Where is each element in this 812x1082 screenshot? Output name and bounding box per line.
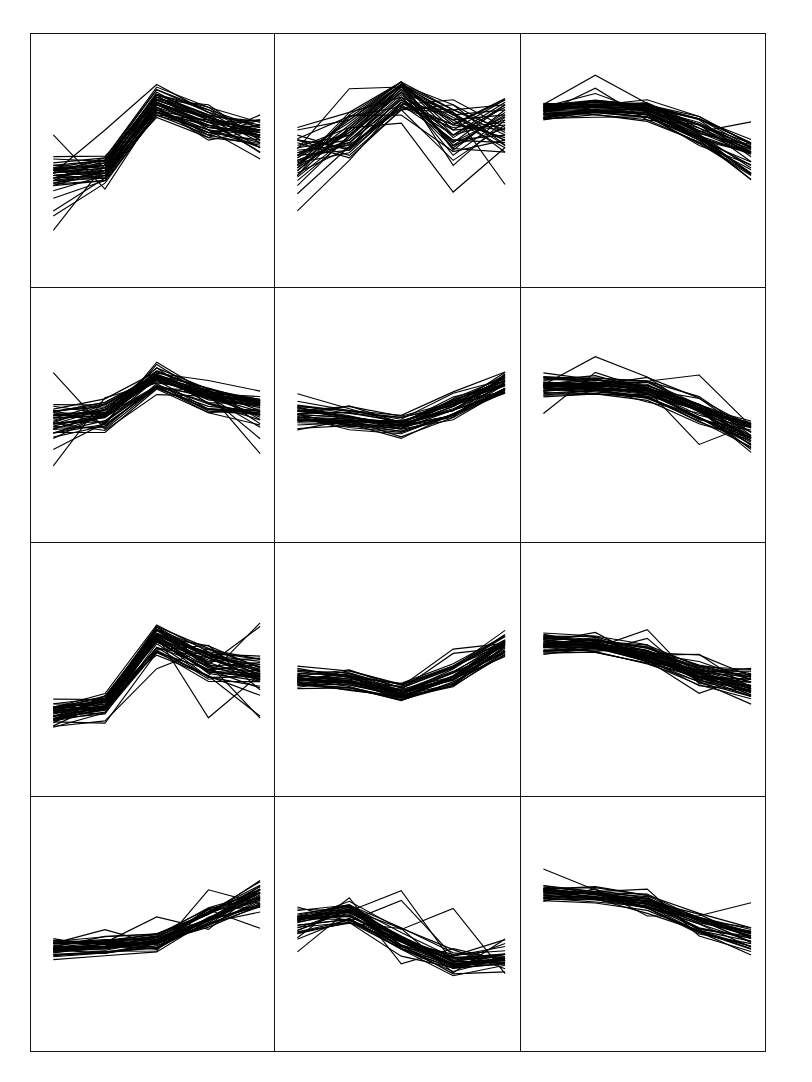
panel-r1c2[interactable] <box>275 33 520 288</box>
parallel-coordinates-plot <box>275 288 519 542</box>
parallel-coordinates-plot <box>521 34 765 287</box>
panel-r3c1[interactable] <box>30 543 275 798</box>
parallel-coordinates-plot <box>31 543 274 797</box>
panel-grid <box>30 33 766 1052</box>
figure-canvas <box>0 0 812 1082</box>
panel-r4c1[interactable] <box>30 797 275 1052</box>
panel-r2c3[interactable] <box>521 288 766 543</box>
panel-r1c3[interactable] <box>521 33 766 288</box>
parallel-coordinates-plot <box>31 34 274 287</box>
panel-r3c3[interactable] <box>521 543 766 798</box>
profile-line <box>543 112 751 179</box>
panel-r4c3[interactable] <box>521 797 766 1052</box>
profile-line <box>543 117 751 176</box>
panel-r2c2[interactable] <box>275 288 520 543</box>
panel-r3c2[interactable] <box>275 543 520 798</box>
parallel-coordinates-plot <box>31 288 274 542</box>
parallel-coordinates-plot <box>275 797 519 1051</box>
profile-line <box>53 648 260 726</box>
profile-line <box>298 905 506 958</box>
profile-line <box>298 85 506 176</box>
parallel-coordinates-plot <box>275 34 519 287</box>
parallel-coordinates-plot <box>275 543 519 797</box>
parallel-coordinates-plot <box>31 797 274 1051</box>
parallel-coordinates-plot <box>521 288 765 542</box>
panel-r4c2[interactable] <box>275 797 520 1052</box>
panel-r2c1[interactable] <box>30 288 275 543</box>
parallel-coordinates-plot <box>521 543 765 797</box>
panel-r1c1[interactable] <box>30 33 275 288</box>
parallel-coordinates-plot <box>521 797 765 1051</box>
